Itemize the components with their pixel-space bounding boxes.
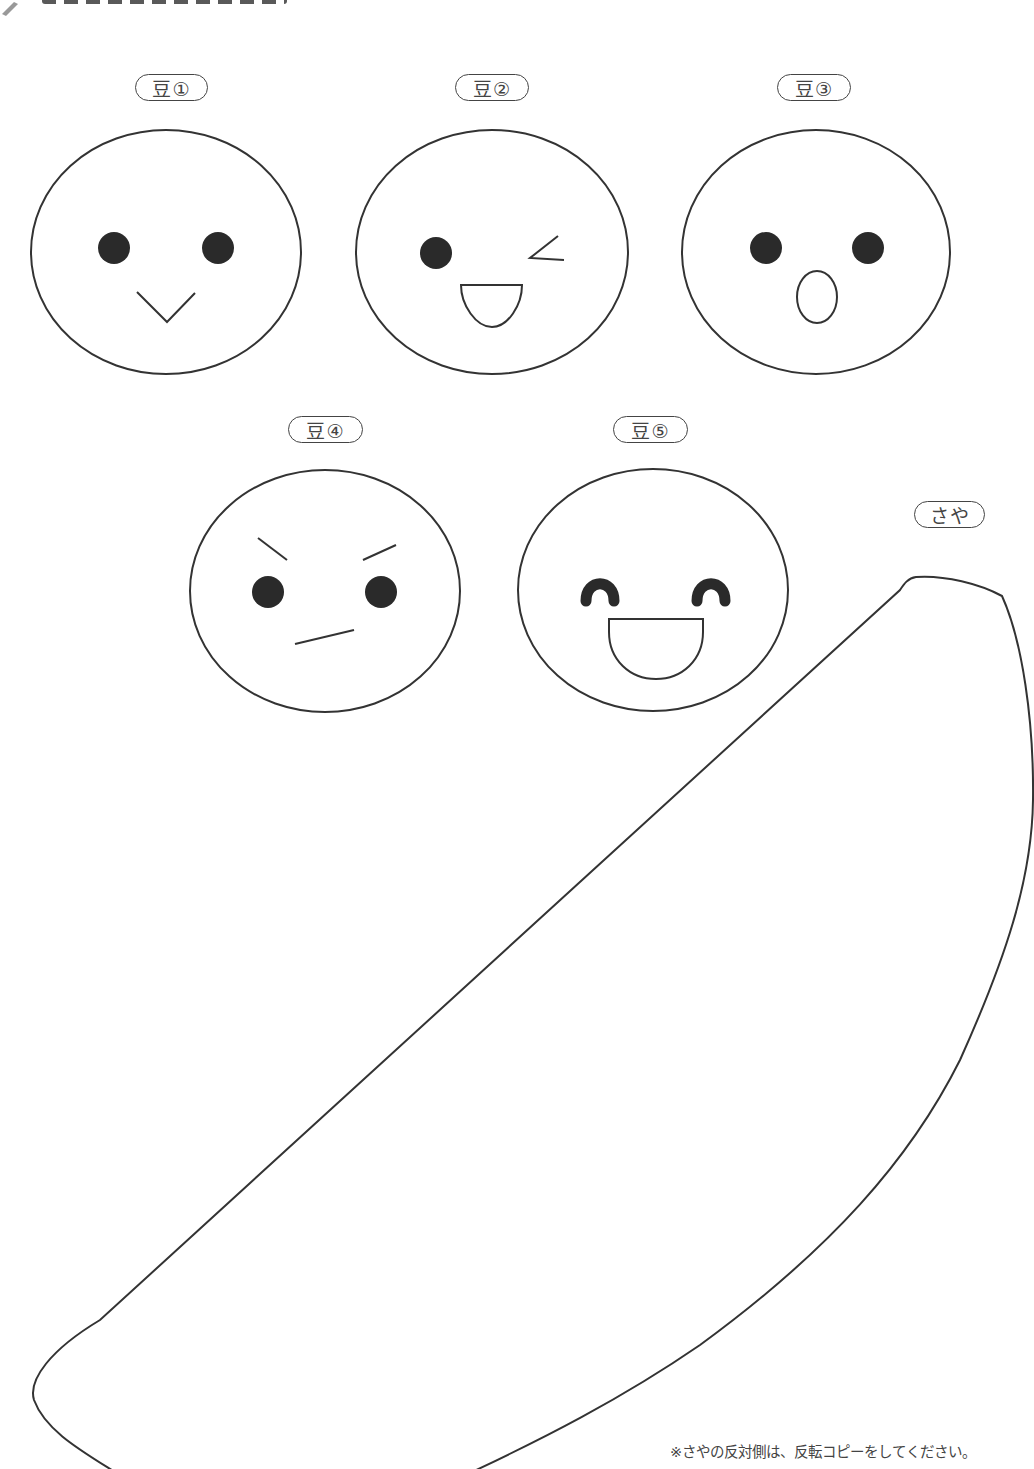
bean-5-face	[518, 469, 788, 711]
label-bean-2: 豆②	[455, 74, 529, 101]
brow-left	[258, 538, 287, 560]
bean-4-face	[190, 470, 460, 712]
eye-left	[98, 232, 130, 264]
eye-right	[365, 576, 397, 608]
label-pod: さや	[914, 501, 985, 528]
label-bean-4: 豆④	[288, 416, 363, 443]
eye-right-arch	[697, 584, 725, 601]
eye-left	[420, 237, 452, 269]
eye-right	[852, 232, 884, 264]
pod-outline	[33, 577, 1033, 1469]
eye-left-arch	[586, 584, 614, 601]
eye-right	[202, 232, 234, 264]
bean-3-face	[682, 130, 950, 374]
bean-2-face	[356, 130, 628, 374]
eye-left	[252, 576, 284, 608]
note-line-1: ※さやの反対側は、反転コピーをしてください。	[670, 1441, 976, 1464]
eye-left	[750, 232, 782, 264]
mouth-o	[797, 271, 837, 323]
pattern-drawing	[0, 0, 1034, 1469]
instruction-note: ※さやの反対側は、反転コピーをしてください。 フェルトを2枚貼り合わせて厚みを出…	[670, 1395, 976, 1469]
brow-right	[363, 545, 396, 560]
bean-1-face	[31, 130, 301, 374]
label-bean-5: 豆⑤	[613, 416, 688, 443]
mouth-v	[137, 292, 195, 322]
label-bean-3: 豆③	[777, 74, 851, 101]
mouth-open	[461, 285, 522, 327]
mouth-flat	[295, 630, 354, 644]
mouth-big-open	[609, 619, 703, 679]
wink-eye	[530, 236, 564, 260]
label-bean-1: 豆①	[135, 74, 208, 101]
